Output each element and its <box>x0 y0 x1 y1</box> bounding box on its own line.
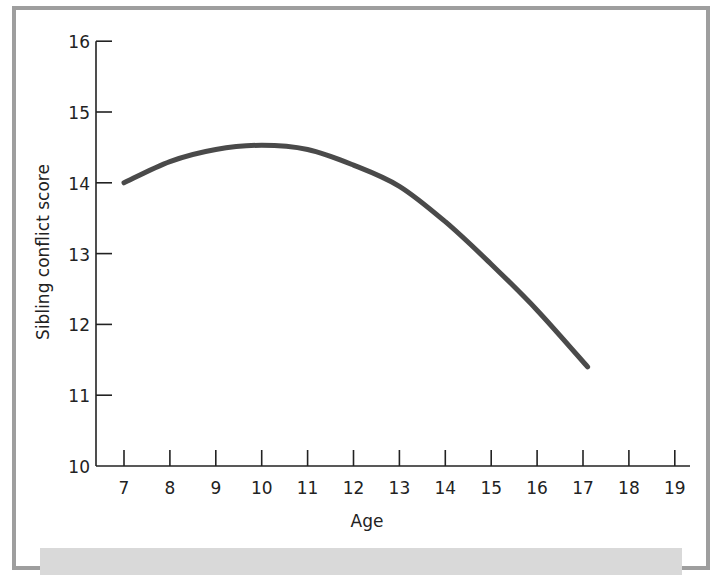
line-chart: 10111213141516 78910111213141516171819 A… <box>0 0 711 575</box>
x-tick-label: 10 <box>251 478 273 498</box>
x-tick-label: 17 <box>572 478 594 498</box>
y-tick-label: 11 <box>68 386 90 406</box>
y-axis-label: Sibling conflict score <box>33 164 53 340</box>
x-tick-label: 14 <box>434 478 456 498</box>
x-tick-label: 9 <box>210 478 221 498</box>
x-tick-label: 7 <box>119 478 130 498</box>
x-tick-label: 11 <box>297 478 319 498</box>
x-tick-label: 19 <box>664 478 686 498</box>
x-tick-label: 13 <box>389 478 411 498</box>
x-tick-label: 15 <box>480 478 502 498</box>
x-axis: 78910111213141516171819 <box>96 450 690 498</box>
x-tick-label: 18 <box>618 478 640 498</box>
x-tick-label: 12 <box>343 478 365 498</box>
x-tick-label: 16 <box>526 478 548 498</box>
data-curve <box>124 145 588 367</box>
x-axis-label: Age <box>351 511 384 531</box>
y-tick-label: 12 <box>68 315 90 335</box>
y-axis: 10111213141516 <box>68 32 112 477</box>
y-tick-label: 13 <box>68 245 90 265</box>
y-tick-label: 15 <box>68 103 90 123</box>
y-tick-label: 16 <box>68 32 90 52</box>
y-tick-label: 10 <box>68 457 90 477</box>
x-tick-label: 8 <box>164 478 175 498</box>
y-tick-label: 14 <box>68 174 90 194</box>
